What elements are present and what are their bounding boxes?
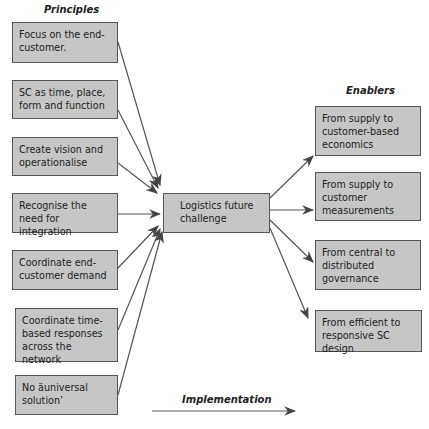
enabler-box: From central to distributed governance	[315, 240, 421, 290]
center-box: Logistics future challenge	[163, 193, 270, 233]
enabler-box: From supply to customer-based economics	[315, 106, 421, 156]
principle-box: Coordinate time-based responses across t…	[15, 308, 118, 362]
principle-box: No äuniversal solution’	[15, 375, 118, 415]
enablers-heading: Enablers	[346, 85, 395, 96]
principle-box: Create vision and operationalise	[12, 137, 118, 176]
principle-box: SC as time, place, form and function	[12, 80, 118, 119]
enabler-box: From supply to customer measurements	[315, 172, 421, 221]
principle-box: Coordinate end-customer demand	[12, 250, 118, 290]
enabler-box: From efficient to responsive SC design	[315, 310, 422, 352]
principle-box: Recognise the need for integration	[12, 193, 118, 233]
implementation-heading: Implementation	[182, 394, 272, 405]
principles-heading: Principles	[44, 4, 99, 15]
principle-box: Focus on the end-customer.	[12, 22, 118, 63]
